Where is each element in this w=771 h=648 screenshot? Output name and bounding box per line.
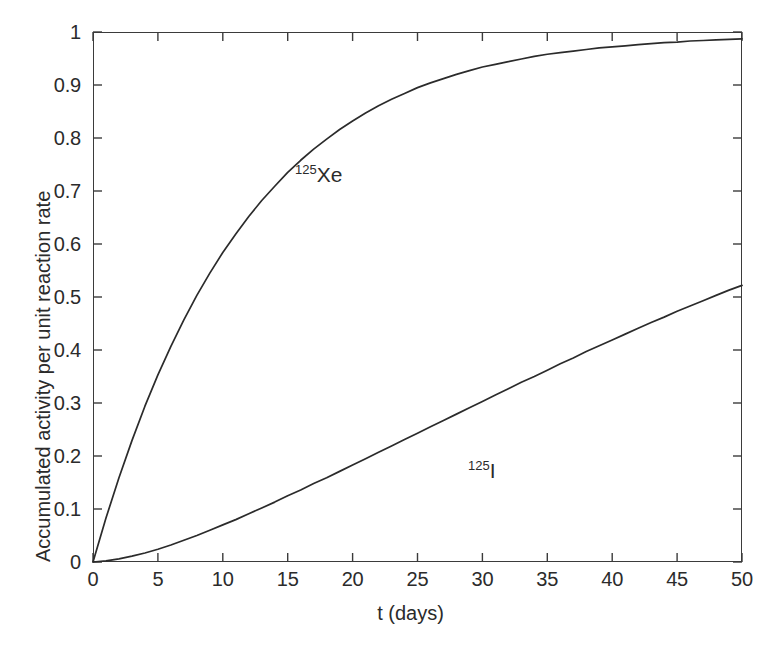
y-tick-label-0: 0 bbox=[70, 551, 81, 574]
y-tick-label-0p3: 0.3 bbox=[54, 392, 81, 415]
curve-annotation-xe-125: 125Xe bbox=[295, 163, 342, 187]
x-tick-label-10: 10 bbox=[212, 568, 234, 591]
x-axis-title: t (days) bbox=[0, 602, 771, 625]
curve-annotation-xe-symbol: Xe bbox=[317, 163, 343, 186]
x-tick-label-30: 30 bbox=[471, 568, 493, 591]
plot-frame bbox=[93, 32, 742, 562]
x-tick-label-20: 20 bbox=[342, 568, 364, 591]
y-tick-label-0p8: 0.8 bbox=[54, 127, 81, 150]
y-tick-label-0p5: 0.5 bbox=[54, 286, 81, 309]
y-tick-label-0p1: 0.1 bbox=[54, 498, 81, 521]
curve-annotation-i-125: 125I bbox=[468, 459, 496, 483]
curve-annotation-i-mass: 125 bbox=[468, 458, 490, 473]
x-tick-label-0: 0 bbox=[88, 568, 99, 591]
x-tick-label-15: 15 bbox=[277, 568, 299, 591]
y-axis-title: Accumulated activity per unit reaction r… bbox=[32, 191, 55, 562]
y-tick-label-0p7: 0.7 bbox=[54, 180, 81, 203]
x-tick-label-25: 25 bbox=[407, 568, 429, 591]
y-tick-label-1: 1 bbox=[70, 21, 81, 44]
x-tick-label-50: 50 bbox=[731, 568, 753, 591]
x-tick-label-5: 5 bbox=[152, 568, 163, 591]
curve-annotation-xe-mass: 125 bbox=[295, 162, 317, 177]
x-tick-label-40: 40 bbox=[601, 568, 623, 591]
y-tick-label-0p6: 0.6 bbox=[54, 233, 81, 256]
y-tick-label-0p2: 0.2 bbox=[54, 445, 81, 468]
x-tick-label-35: 35 bbox=[536, 568, 558, 591]
x-tick-label-45: 45 bbox=[666, 568, 688, 591]
figure-chart: 0 5 10 15 20 25 30 35 40 45 50 0 0.1 0.2… bbox=[0, 0, 771, 648]
y-tick-label-0p4: 0.4 bbox=[54, 339, 81, 362]
y-tick-label-0p9: 0.9 bbox=[54, 74, 81, 97]
curve-annotation-i-symbol: I bbox=[490, 459, 496, 482]
